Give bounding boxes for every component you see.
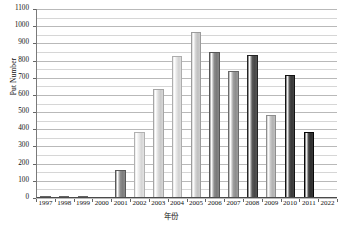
x-tick-mark [36,199,37,202]
x-tick-mark [299,199,300,202]
y-tick-label: 800 [0,57,29,64]
x-tick-mark [318,199,319,202]
y-tick-label: 900 [0,39,29,46]
x-tick-label: 2002 [132,199,146,208]
x-tick-label: 2001 [114,199,128,208]
x-tick-mark [168,199,169,202]
bar-chart: Put Number 01002003004005006007008009001… [0,0,341,227]
x-tick-label: 2009 [264,199,278,208]
x-tick-label: 2007 [227,199,241,208]
x-tick-mark [111,199,112,202]
x-tick-label: 2011 [302,199,316,208]
x-axis-title: 年份 [0,210,341,221]
plot-frame [36,9,337,198]
x-tick-label: 1998 [57,199,71,208]
x-tick-label: 2003 [151,199,165,208]
y-tick-label: 0 [0,194,29,201]
y-tick-label: 500 [0,108,29,115]
x-tick-mark [187,199,188,202]
x-tick-mark [130,199,131,202]
x-tick-label: 2006 [208,199,222,208]
x-tick-mark [205,199,206,202]
x-tick-mark [224,199,225,202]
x-tick-label: 1997 [38,199,52,208]
x-tick-mark [55,199,56,202]
x-tick-mark [92,199,93,202]
x-tick-label: 1999 [76,199,90,208]
y-tick-label: 400 [0,125,29,132]
x-tick-mark [243,199,244,202]
x-tick-label: 2004 [170,199,184,208]
x-tick-label: 2022 [321,199,335,208]
x-tick-mark [281,199,282,202]
y-tick-label: 1000 [0,22,29,29]
y-tick-label: 200 [0,160,29,167]
y-tick-label: 600 [0,91,29,98]
x-tick-mark [337,199,338,202]
y-tick-label: 300 [0,142,29,149]
y-tick-label: 700 [0,74,29,81]
x-tick-label: 2008 [245,199,259,208]
x-tick-label: 2005 [189,199,203,208]
x-tick-label: 2010 [283,199,297,208]
y-tick-label: 1100 [0,5,29,12]
plot-area: 010020030040050060070080090010001100 [36,9,337,198]
x-tick-mark [262,199,263,202]
x-tick-label: 2000 [95,199,109,208]
y-tick-label: 100 [0,177,29,184]
x-tick-mark [74,199,75,202]
x-tick-mark [149,199,150,202]
